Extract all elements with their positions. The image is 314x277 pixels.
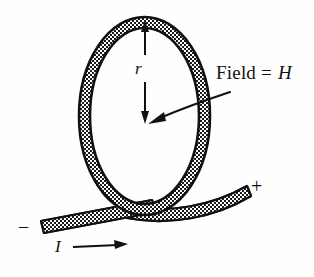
current-label: I: [55, 238, 61, 255]
radius-label: r: [135, 60, 142, 77]
current-arrow: [73, 240, 128, 249]
field-symbol: H: [277, 62, 292, 83]
field-label-text: Field =: [216, 62, 277, 83]
terminal-negative-label: −: [18, 217, 29, 237]
field-label: Field = H: [216, 63, 292, 82]
radius-arrow: [141, 20, 149, 124]
terminal-positive-label: +: [251, 176, 262, 196]
physics-figure-loop-field: Field = H r I + −: [0, 0, 314, 277]
field-arrow: [148, 92, 230, 124]
figure-canvas: [0, 0, 314, 277]
